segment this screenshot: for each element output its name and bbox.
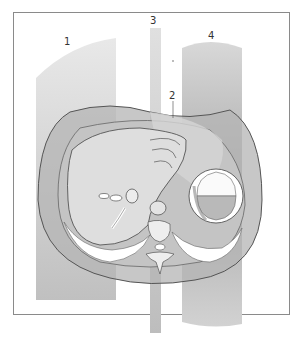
spinal-canal <box>155 244 165 250</box>
label-1: 1 <box>64 36 70 47</box>
portal-vein <box>126 189 138 203</box>
label-3: 3 <box>150 15 156 26</box>
vessel-1 <box>99 194 109 199</box>
vessel-2 <box>110 195 122 201</box>
anatomy-illustration <box>0 0 299 363</box>
aorta <box>150 201 166 215</box>
label-2: 2 <box>169 90 175 101</box>
label-4: 4 <box>208 30 214 41</box>
